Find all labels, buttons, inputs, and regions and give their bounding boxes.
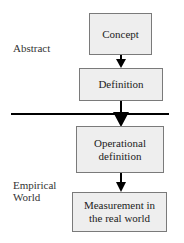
operational-definition-label-line2: definition: [99, 150, 142, 163]
arrow-operational-to-measurement: [116, 173, 126, 192]
measurement-node: Measurement in the real world: [72, 192, 167, 232]
abstract-zone-label: Abstract: [13, 42, 50, 54]
measurement-label-line2: the real world: [89, 212, 150, 225]
measurement-label-line1: Measurement in: [84, 199, 155, 212]
operational-definition-node: Operational definition: [76, 126, 164, 173]
empirical-zone-label-line1: Empirical: [13, 179, 56, 191]
concept-node-label: Concept: [102, 28, 139, 41]
definition-node: Definition: [79, 68, 163, 101]
operational-definition-label-line1: Operational: [94, 137, 146, 150]
arrow-concept-to-definition: [116, 55, 126, 68]
definition-node-label: Definition: [98, 78, 143, 91]
empirical-zone-label-line2: World: [13, 191, 40, 203]
concept-node: Concept: [89, 13, 152, 55]
arrow-definition-to-operational: [113, 101, 129, 127]
